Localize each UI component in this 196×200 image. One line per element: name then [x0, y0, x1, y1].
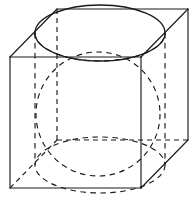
cylinder-bottom-ellipse	[35, 137, 165, 193]
geometry-diagram	[0, 0, 196, 200]
geometry-figure-canvas	[0, 0, 196, 200]
cube-hidden-edge-bottom-left-diagonal	[10, 140, 57, 188]
cube-edge-top-left-diagonal	[10, 9, 57, 57]
